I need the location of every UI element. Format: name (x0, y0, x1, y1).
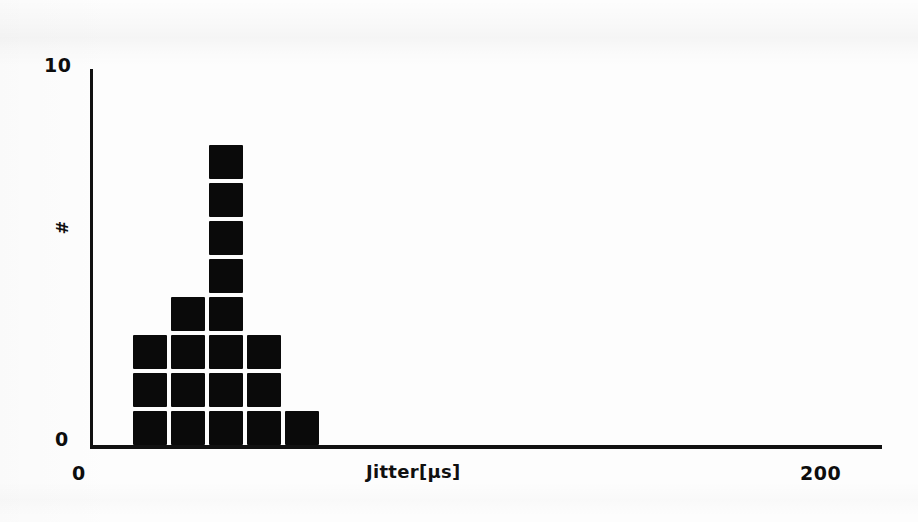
histogram-block (209, 259, 243, 293)
histogram-block (171, 335, 205, 369)
histogram-block (133, 411, 167, 445)
histogram-block (209, 335, 243, 369)
histogram-block (133, 335, 167, 369)
histogram-block (209, 145, 243, 179)
histogram-block (247, 335, 281, 369)
histogram-block (247, 373, 281, 407)
histogram-block (171, 297, 205, 331)
scanned-figure: 10 0 0 200 # Jitter[µs] (0, 0, 918, 522)
histogram-block (247, 411, 281, 445)
plot-area (0, 0, 918, 522)
histogram-block (209, 297, 243, 331)
histogram-block (209, 221, 243, 255)
histogram-block (285, 411, 319, 445)
histogram-block (209, 183, 243, 217)
histogram-block (171, 373, 205, 407)
histogram-block (133, 373, 167, 407)
histogram-block (209, 373, 243, 407)
histogram-block (209, 411, 243, 445)
histogram-block (171, 411, 205, 445)
